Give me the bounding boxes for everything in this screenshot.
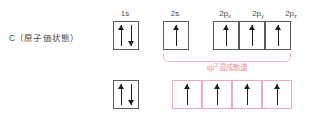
orbital-label-2py-text: 2p [252,9,261,18]
orbital-label-2py: 2py [243,9,273,19]
hybridization-label-exponent: 3 [214,62,217,68]
orbital-label-2px-sub: x [228,13,231,19]
electron-single-sp3-4 [263,81,291,108]
orbital-box-1s [113,21,139,50]
orbital-label-2s-text: 2s [171,9,179,18]
electron-arrow-up [184,84,191,105]
orbital-label-2pz: 2pz [276,9,306,19]
hybridization-bracket [163,53,291,62]
electron-arrow-up [118,25,125,46]
species-label: C（原子価状態） [9,33,79,44]
hybridization-label: sp3 混成軌道 [163,63,291,73]
orbital-box-2pz [265,21,291,50]
electron-single-2s [164,22,188,49]
electron-arrow-up [275,25,282,46]
orbital-label-1s-text: 1s [121,9,129,18]
orbital-label-2px-text: 2p [219,9,228,18]
electron-single-2py [240,22,264,49]
orbital-label-2s: 2s [160,9,190,19]
orbital-box-1s-hybridized [113,80,139,109]
electron-arrow-up [223,25,230,46]
electron-pair-1s [114,22,138,49]
electron-arrow-up [249,25,256,46]
orbital-box-sp3-2 [202,80,232,109]
electron-single-2pz [266,22,290,49]
orbital-box-sp3-1 [172,80,202,109]
orbital-label-2py-sub: y [261,13,264,19]
electron-single-sp3-3 [233,81,261,108]
orbital-label-2pz-text: 2p [285,9,294,18]
orbital-label-1s: 1s [110,9,140,19]
electron-arrow-down [128,25,135,46]
orbital-box-sp3-4 [262,80,292,109]
electron-arrow-up [244,84,251,105]
orbital-box-2px [213,21,239,50]
electron-arrow-down [128,84,135,105]
electron-single-sp3-1 [173,81,201,108]
orbital-diagram: C（原子価状態） 1s 2s 2px 2py 2pz [0,0,319,117]
orbital-box-2s [163,21,189,50]
orbital-label-2pz-sub: z [294,13,297,19]
electron-arrow-up [173,25,180,46]
electron-single-2px [214,22,238,49]
orbital-box-sp3-3 [232,80,262,109]
electron-arrow-up [214,84,221,105]
electron-arrow-up [274,84,281,105]
hybridization-label-tail: 混成軌道 [217,63,247,72]
electron-pair-1s-hybridized [114,81,138,108]
electron-arrow-up [118,84,125,105]
orbital-box-2py [239,21,265,50]
orbital-label-2px: 2px [210,9,240,19]
electron-single-sp3-2 [203,81,231,108]
